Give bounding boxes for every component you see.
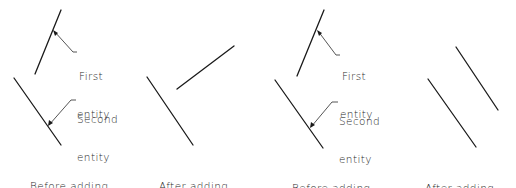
- second-entity-leader: [311, 102, 338, 127]
- first-entity-line: [177, 46, 234, 89]
- label-line: First: [79, 70, 110, 83]
- second-entity-leader: [49, 100, 76, 125]
- first-entity-line: [297, 10, 324, 76]
- label-line: First: [342, 70, 373, 83]
- caption-line: After adding: [425, 182, 504, 188]
- panel-3-graphics: [275, 10, 340, 148]
- caption-line: Before adding: [292, 182, 371, 188]
- second-entity-line: [275, 80, 323, 148]
- constraint-diagram: First entity Second entity Before adding…: [0, 0, 516, 188]
- panel-3-caption: Before adding the constraint: [292, 157, 371, 188]
- panel-4-caption: After adding the constraint: [425, 157, 504, 188]
- panel-2-caption: After adding the constraint: [159, 155, 238, 188]
- second-entity-line: [147, 77, 193, 145]
- panel-1-graphics: [14, 10, 77, 145]
- panel-1-caption: Before adding the constraint: [30, 155, 109, 188]
- panel-4-graphics: [428, 47, 498, 147]
- first-entity-line: [35, 10, 61, 74]
- label-line: Second: [77, 113, 118, 126]
- second-entity-line: [14, 78, 61, 145]
- caption-line: After adding: [159, 180, 238, 188]
- second-entity-line: [456, 47, 498, 110]
- caption-line: Before adding: [30, 180, 109, 188]
- first-entity-leader: [54, 31, 77, 52]
- label-line: Second: [339, 115, 380, 128]
- first-entity-line: [428, 79, 476, 147]
- panel-2-graphics: [147, 46, 234, 145]
- first-entity-leader: [318, 31, 340, 55]
